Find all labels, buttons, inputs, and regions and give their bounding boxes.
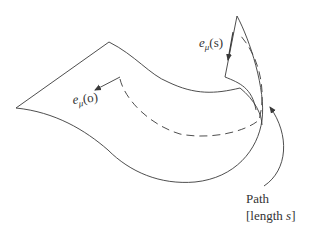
transport-path — [120, 35, 262, 136]
vector-start — [95, 77, 120, 90]
surface-flap-edge — [225, 16, 256, 110]
vector-end — [228, 32, 233, 60]
surface-bottom-edge — [16, 16, 263, 182]
label-path-length: [length s] — [246, 208, 295, 223]
label-path: Path — [246, 191, 270, 206]
surface-fold-curve — [240, 88, 262, 125]
diagram-canvas: eμ(o) eμ(s) Path [length s] — [0, 0, 310, 231]
label-vector-start: eμ(o) — [72, 89, 99, 109]
path-pointer-arrow — [264, 107, 284, 186]
label-vector-end: eμ(s) — [199, 35, 223, 52]
surface — [16, 16, 263, 182]
